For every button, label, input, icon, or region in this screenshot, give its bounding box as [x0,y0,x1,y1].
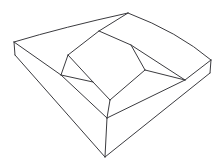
wireframe-figure: Monochrome outline drawing of a three-di… [0,0,223,166]
